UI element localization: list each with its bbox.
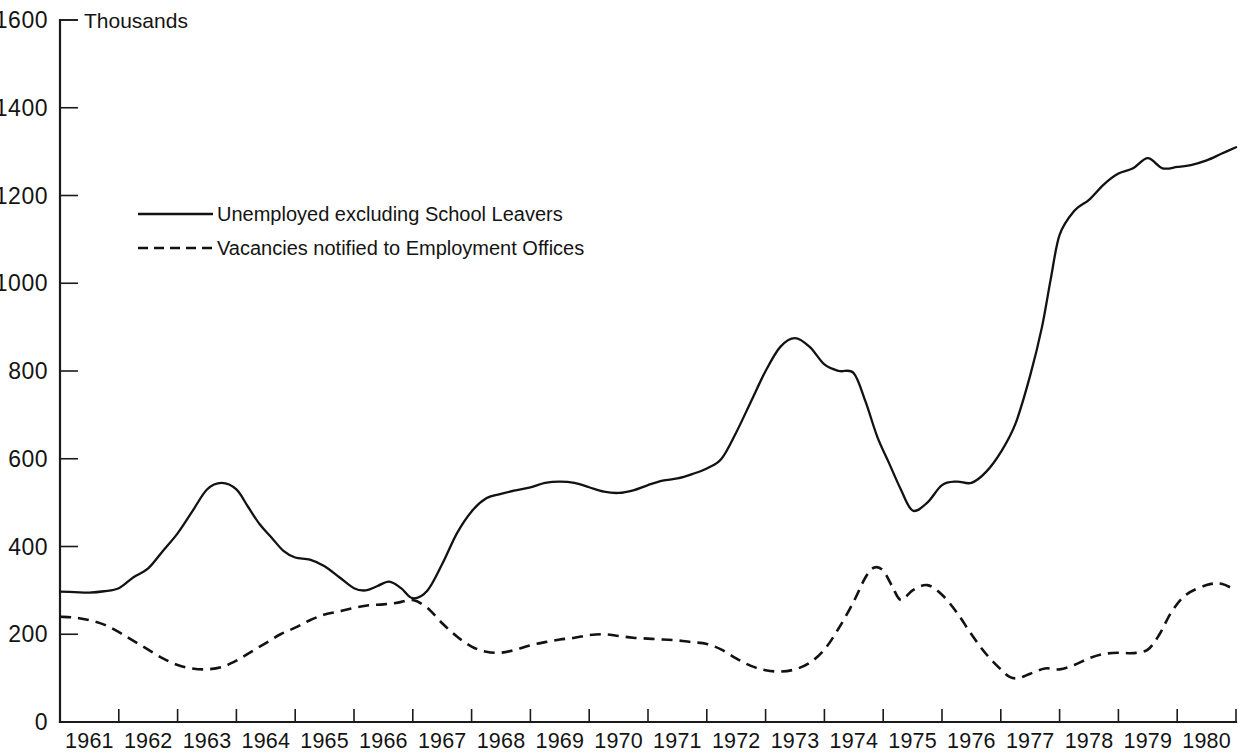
- legend-label-vacancies: Vacancies notified to Employment Offices: [217, 237, 584, 259]
- x-tick-label: 1968: [477, 729, 526, 752]
- x-tick-label: 1974: [829, 729, 878, 752]
- y-tick-label: 200: [8, 621, 48, 647]
- x-axis-tick-labels: 1961196219631964196519661967196819691970…: [65, 729, 1231, 752]
- y-tick-label: 800: [8, 358, 48, 384]
- x-tick-label: 1972: [712, 729, 761, 752]
- x-tick-label: 1980: [1182, 729, 1231, 752]
- x-tick-label: 1978: [1065, 729, 1114, 752]
- x-tick-label: 1969: [535, 729, 584, 752]
- unit-label: Thousands: [84, 9, 188, 32]
- x-tick-label: 1966: [359, 729, 408, 752]
- y-tick-label: 400: [8, 534, 48, 560]
- y-axis-ticks: [60, 20, 78, 634]
- y-tick-label: 600: [8, 446, 48, 472]
- y-axis: 02004006008001000120014001600: [0, 7, 78, 735]
- y-tick-label: 1600: [0, 7, 48, 33]
- x-tick-label: 1961: [65, 729, 114, 752]
- y-tick-label: 1400: [0, 95, 48, 121]
- x-tick-label: 1970: [594, 729, 643, 752]
- legend-label-unemployed: Unemployed excluding School Leavers: [217, 203, 563, 225]
- x-tick-label: 1976: [947, 729, 996, 752]
- x-tick-label: 1962: [124, 729, 173, 752]
- x-axis-ticks: [119, 709, 1236, 722]
- x-tick-label: 1971: [653, 729, 702, 752]
- y-tick-label: 1200: [0, 183, 48, 209]
- legend: Unemployed excluding School Leavers Vaca…: [138, 203, 584, 259]
- y-tick-label: 0: [35, 709, 48, 735]
- x-tick-label: 1973: [771, 729, 820, 752]
- y-tick-label: 1000: [0, 270, 48, 296]
- series-layer: [60, 147, 1236, 678]
- x-tick-label: 1964: [241, 729, 290, 752]
- chart-container: 02004006008001000120014001600 1961196219…: [0, 0, 1245, 752]
- x-tick-label: 1967: [418, 729, 467, 752]
- x-tick-label: 1963: [183, 729, 232, 752]
- x-tick-label: 1965: [300, 729, 349, 752]
- x-tick-label: 1977: [1006, 729, 1055, 752]
- x-axis: 1961196219631964196519661967196819691970…: [60, 709, 1236, 752]
- line-chart: 02004006008001000120014001600 1961196219…: [0, 0, 1245, 752]
- y-axis-tick-labels: 02004006008001000120014001600: [0, 7, 48, 735]
- series-line-vacancies: [60, 567, 1236, 678]
- x-tick-label: 1975: [888, 729, 937, 752]
- x-tick-label: 1979: [1123, 729, 1172, 752]
